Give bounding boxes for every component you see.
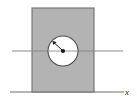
center-point	[61, 49, 65, 53]
x-axis-label: x	[124, 87, 129, 97]
figure-container: x	[0, 0, 137, 103]
mechanics-diagram: x	[0, 0, 137, 103]
